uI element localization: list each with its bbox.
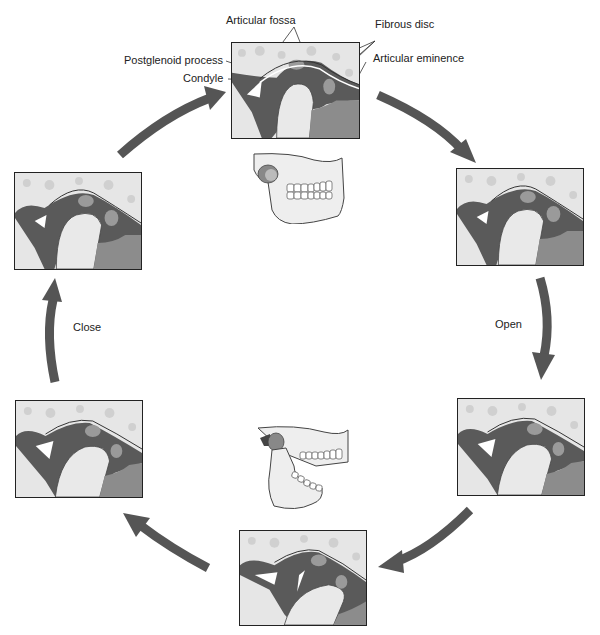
arrow-bottom-to-left — [123, 513, 208, 568]
label-fibrous-disc: Fibrous disc — [375, 18, 434, 30]
panel-right-top-opening — [456, 168, 584, 266]
panel-left-bottom-closing — [15, 400, 143, 498]
panel-left-top-closing — [14, 172, 142, 270]
label-open: Open — [495, 318, 522, 330]
label-close: Close — [73, 321, 101, 333]
label-condyle: Condyle — [183, 72, 223, 84]
arrow-top-to-right — [378, 95, 476, 163]
arrow-open — [532, 278, 555, 380]
skull-closed-icon — [252, 152, 348, 224]
arrow-close-to-top — [120, 86, 226, 155]
panel-right-bottom-opening — [457, 398, 585, 496]
cutoff-caption — [300, 628, 600, 635]
panel-top-closed — [231, 42, 360, 139]
panel-bottom-fully-open — [239, 530, 367, 626]
label-articular-fossa: Articular fossa — [226, 14, 296, 26]
arrow-right-to-bottom — [378, 510, 470, 573]
label-postglenoid-process: Postglenoid process — [124, 54, 223, 66]
skull-open-icon — [256, 420, 356, 516]
arrow-close — [42, 278, 62, 382]
label-articular-eminence: Articular eminence — [373, 52, 464, 64]
